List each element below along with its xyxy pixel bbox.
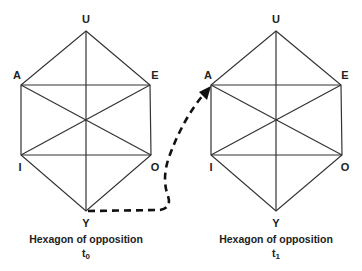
vertex-label-y: Y (82, 217, 90, 229)
vertex-label-e: E (341, 69, 348, 81)
vertex-label-u: U (82, 13, 90, 25)
transition-arrow (88, 86, 211, 211)
hexagon-diagram: U A E I O Y Hexagon of opposition t0 U A… (0, 0, 362, 271)
vertex-label-o: O (151, 161, 160, 173)
vertex-label-u: U (272, 13, 280, 25)
vertex-label-a: A (13, 69, 21, 81)
vertex-label-y: Y (272, 217, 280, 229)
vertex-label-e: E (151, 69, 158, 81)
time-label-right: t1 (272, 247, 281, 261)
hexagon-left: U A E I O Y Hexagon of opposition t0 (13, 13, 160, 261)
hexagon-right: U A E I O Y Hexagon of opposition t1 (204, 13, 350, 261)
caption-right: Hexagon of opposition (219, 233, 333, 245)
vertex-label-o: O (341, 161, 350, 173)
time-label-left: t0 (82, 247, 91, 261)
vertex-label-a: A (204, 69, 212, 81)
vertex-label-i: I (209, 161, 212, 173)
vertex-label-i: I (18, 161, 21, 173)
caption-left: Hexagon of opposition (29, 233, 143, 245)
